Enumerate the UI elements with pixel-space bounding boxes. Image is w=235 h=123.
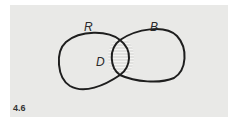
venn-diagram <box>0 0 235 123</box>
figure-number: 4.6 <box>13 103 26 113</box>
intersection-hatch <box>105 36 137 78</box>
label-r: R <box>84 20 93 34</box>
label-d: D <box>96 55 105 69</box>
label-b: B <box>150 20 158 34</box>
